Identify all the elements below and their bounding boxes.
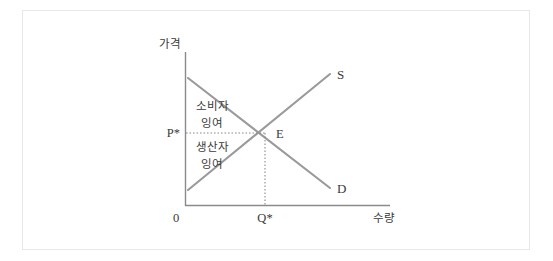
y-axis-label: 가격: [159, 37, 181, 51]
consumer-surplus-label-line1: 소비자: [196, 99, 229, 113]
producer-surplus-label-line2: 잉여: [201, 157, 223, 171]
consumer-surplus-label-line2: 잉여: [201, 116, 223, 130]
producer-surplus-label-line1: 생산자: [196, 140, 229, 154]
origin-label: 0: [173, 211, 179, 225]
x-axis-label: 수량: [373, 211, 395, 225]
demand-curve-label: D: [337, 181, 346, 196]
supply-curve-label: S: [337, 67, 344, 82]
screenshot-root: 가격 수량 0 S D E P* Q* 소비자 잉여 생산자 잉여: [0, 0, 553, 261]
supply-demand-chart: 가격 수량 0 S D E P* Q* 소비자 잉여 생산자 잉여: [0, 0, 553, 261]
equilibrium-point-label: E: [276, 127, 284, 141]
equilibrium-quantity-label: Q*: [257, 211, 272, 225]
equilibrium-price-label: P*: [167, 126, 180, 140]
